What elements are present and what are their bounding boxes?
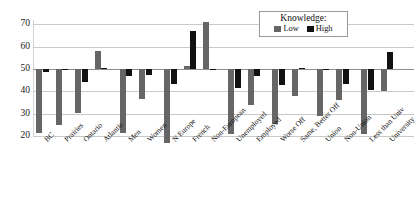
bar-low — [317, 69, 323, 116]
legend: Knowledge: LowHigh — [259, 11, 348, 37]
bars-layer — [33, 20, 414, 136]
plot-area — [33, 20, 414, 136]
bar-high — [146, 69, 152, 75]
bar-high — [299, 68, 305, 69]
bar-high — [82, 69, 88, 82]
bar-high — [343, 69, 349, 84]
y-axis-tick-label: 60 — [4, 42, 30, 52]
legend-swatch-high — [307, 26, 314, 32]
bar-high — [279, 69, 285, 85]
bar-low — [336, 69, 342, 100]
bar-high — [101, 68, 107, 69]
legend-swatch-low — [274, 26, 281, 32]
y-axis-tick-label: 40 — [4, 87, 30, 97]
y-axis-tick-label: 30 — [4, 109, 30, 119]
bar-high — [387, 52, 393, 69]
bar-low — [248, 69, 254, 105]
legend-label: Low — [283, 25, 298, 33]
bar-chart: 203040506070 BCPrairiesOntarioAtlanticMe… — [0, 0, 418, 220]
legend-item: Low — [274, 25, 298, 33]
bar-low — [139, 69, 145, 99]
bar-low — [164, 69, 170, 143]
y-axis-tick-label: 20 — [4, 131, 30, 141]
legend-title: Knowledge: — [260, 13, 347, 24]
bar-low — [56, 69, 62, 125]
legend-label: High — [316, 25, 333, 33]
bar-low — [203, 22, 209, 69]
bar-high — [171, 69, 177, 84]
bar-high — [323, 69, 329, 70]
bar-low — [292, 69, 298, 96]
bar-high — [210, 69, 216, 70]
bar-low — [381, 69, 387, 91]
bar-high — [62, 69, 68, 70]
bar-high — [254, 69, 260, 76]
bar-low — [184, 66, 190, 69]
legend-items: LowHigh — [260, 25, 347, 33]
x-axis-labels: BCPrairiesOntarioAtlanticMenWomenN Europ… — [33, 138, 414, 220]
bar-high — [126, 69, 132, 76]
bar-high — [190, 31, 196, 69]
bar-high — [43, 69, 49, 72]
bar-high — [235, 69, 241, 88]
bar-low — [75, 69, 81, 113]
bar-high — [368, 69, 374, 90]
y-axis: 203040506070 — [0, 20, 30, 136]
y-axis-tick-label: 70 — [4, 20, 30, 30]
y-axis-tick-label: 50 — [4, 64, 30, 74]
bar-low — [95, 51, 101, 69]
legend-item: High — [307, 25, 333, 33]
bar-low — [36, 69, 42, 133]
